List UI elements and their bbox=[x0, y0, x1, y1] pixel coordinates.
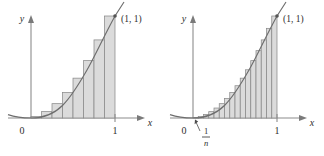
subinterval-pointer bbox=[195, 120, 200, 132]
rectangle-bar bbox=[84, 61, 95, 118]
rectangle-bar bbox=[94, 40, 105, 118]
riemann-sum-figure: y x 0 1 (1, 1) bbox=[0, 0, 324, 156]
panel-sixteen-rectangles: 1 n y x 0 1 (1, 1) bbox=[162, 0, 324, 156]
rectangle-bar bbox=[261, 40, 266, 118]
x-axis-label: x bbox=[147, 117, 153, 128]
subinterval-numerator: 1 bbox=[204, 126, 208, 136]
origin-label: 0 bbox=[182, 125, 187, 136]
rectangle-bar bbox=[52, 104, 63, 118]
rectangle-bar bbox=[256, 51, 261, 118]
rectangle-bar bbox=[251, 61, 256, 118]
point-one-one-label: (1, 1) bbox=[283, 14, 304, 25]
point-one-one-marker bbox=[113, 14, 117, 18]
subinterval-width-label: 1 n bbox=[202, 126, 210, 148]
rectangle-bar bbox=[105, 16, 116, 118]
subinterval-denominator: n bbox=[204, 138, 208, 148]
rectangle-bar bbox=[272, 16, 277, 118]
rectangle-group-left bbox=[31, 16, 115, 118]
panel-eight-rectangles: y x 0 1 (1, 1) bbox=[0, 0, 162, 156]
rectangle-bar bbox=[246, 70, 251, 118]
y-axis-label: y bbox=[181, 13, 187, 24]
x-tick-label-one: 1 bbox=[275, 125, 280, 136]
rectangle-bar bbox=[63, 93, 74, 119]
y-axis-right bbox=[190, 15, 196, 118]
origin-label: 0 bbox=[20, 125, 25, 136]
x-tick-label-one: 1 bbox=[113, 125, 118, 136]
point-one-one-marker bbox=[275, 14, 279, 18]
rectangle-group-right bbox=[193, 16, 277, 118]
y-axis-left bbox=[28, 15, 34, 118]
rectangle-bar bbox=[267, 28, 272, 118]
point-one-one-label: (1, 1) bbox=[121, 14, 142, 25]
y-axis-label: y bbox=[19, 13, 25, 24]
x-axis-label: x bbox=[309, 117, 315, 128]
